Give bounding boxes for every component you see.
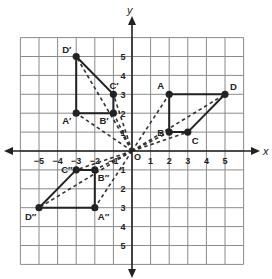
- dashed-ray: [132, 94, 225, 151]
- vertex-label: D′: [62, 44, 72, 55]
- vertex-label: C″: [61, 164, 73, 175]
- vertex-point: [184, 129, 191, 136]
- vertex-point: [35, 204, 42, 211]
- vertex-label: D″: [25, 211, 37, 222]
- vertex-point: [110, 110, 117, 117]
- x-tick-label: 1: [148, 156, 153, 166]
- vertex-point: [110, 91, 117, 98]
- y-tick-label: 1: [120, 165, 125, 175]
- vertex-label: A′: [62, 115, 72, 126]
- vertex-point: [166, 91, 173, 98]
- y-tick-label: 5: [120, 52, 125, 62]
- origin-label: O: [134, 152, 141, 162]
- dashed-ray: [113, 94, 132, 151]
- x-tick-label: −5: [34, 156, 44, 166]
- axes: [4, 16, 260, 278]
- x-tick-label: 3: [185, 156, 190, 166]
- y-tick-label: 4: [120, 222, 125, 232]
- coordinate-plane: −5−4−3−2−1123455432112345O ABCDA′B′C′D′A…: [0, 0, 272, 279]
- vertex-point: [73, 166, 80, 173]
- vertex-point: [166, 129, 173, 136]
- y-tick-label: 2: [120, 184, 125, 194]
- vertex-point: [73, 110, 80, 117]
- y-tick-label: 3: [120, 90, 125, 100]
- vertex-point: [73, 53, 80, 60]
- y-tick-label: 3: [120, 203, 125, 213]
- x-axis-label: x: [262, 145, 269, 157]
- vertex-label: B: [157, 127, 164, 138]
- y-tick-label: 2: [120, 109, 125, 119]
- vertex-label: A: [157, 80, 164, 91]
- vertex-label: C: [192, 135, 199, 146]
- x-tick-label: 5: [222, 156, 227, 166]
- y-tick-label: 1: [120, 128, 125, 138]
- y-axis-label: y: [126, 4, 134, 16]
- arrow-left-icon: [4, 147, 13, 155]
- vertex-label: C′: [109, 80, 119, 91]
- x-tick-label: −1: [108, 156, 118, 166]
- x-tick-label: 2: [167, 156, 172, 166]
- arrow-right-icon: [251, 147, 260, 155]
- y-tick-label: 4: [120, 71, 125, 81]
- y-tick-label: 5: [120, 241, 125, 251]
- x-tick-label: 4: [204, 156, 209, 166]
- vertex-point: [221, 91, 228, 98]
- vertex-label: B″: [98, 172, 110, 183]
- arrow-down-icon: [128, 269, 136, 278]
- x-tick-label: −2: [90, 156, 100, 166]
- vertex-label: A″: [98, 211, 110, 222]
- vertex-label: D: [230, 81, 237, 92]
- vertex-label: B′: [99, 115, 109, 126]
- arrow-up-icon: [128, 16, 136, 25]
